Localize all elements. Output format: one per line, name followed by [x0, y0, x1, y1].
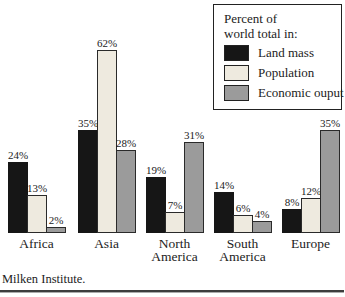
bar-group: 19%7%31%NorthAmerica: [146, 129, 203, 233]
legend-item-land-mass: Land mass: [224, 45, 337, 61]
population-bar: [97, 50, 117, 233]
bar-value-label: 7%: [168, 199, 183, 211]
population-bar: [165, 212, 185, 233]
legend-item-economic-ouput: Economic ouput: [224, 85, 337, 101]
bar-value-label: 6%: [236, 202, 251, 214]
economic-bar: [46, 227, 66, 233]
category-label: Europe: [291, 237, 330, 250]
legend-title-line2: world total in:: [224, 26, 337, 41]
bar-column: 14%: [214, 179, 234, 233]
legend-item-population: Population: [224, 65, 337, 81]
bar-column: 6%: [233, 202, 253, 233]
bar-group: 35%62%28%Asia: [78, 37, 135, 233]
legend-title: Percent of world total in:: [224, 11, 337, 41]
category-label: SouthAmerica: [219, 237, 265, 263]
bar-value-label: 31%: [184, 129, 204, 141]
economic-bar: [184, 142, 204, 233]
bar-value-label: 24%: [8, 149, 28, 161]
bar-value-label: 12%: [301, 185, 321, 197]
bar-group-bars: 8%12%35%: [282, 117, 339, 233]
economic-bar: [320, 130, 340, 233]
bar-value-label: 4%: [255, 208, 270, 220]
bar-value-label: 13%: [27, 182, 47, 194]
bar-group-bars: 14%6%4%: [214, 179, 271, 233]
bar-group-bars: 35%62%28%: [78, 37, 135, 233]
bar-group: 8%12%35%Europe: [282, 117, 339, 233]
bar-column: 4%: [252, 208, 272, 233]
bar-chart-figure: 24%13%2%Africa35%62%28%Asia19%7%31%North…: [0, 0, 345, 297]
category-label: Africa: [19, 237, 53, 250]
legend-item-label: Land mass: [258, 45, 314, 61]
bar-group-bars: 24%13%2%: [8, 149, 65, 233]
legend-box: Percent of world total in: Land mass Pop…: [213, 4, 342, 110]
bar-column: 2%: [46, 214, 66, 233]
category-label: Asia: [94, 237, 119, 250]
bar-value-label: 19%: [146, 164, 166, 176]
bar-value-label: 62%: [97, 37, 117, 49]
bar-group-bars: 19%7%31%: [146, 129, 203, 233]
bar-column: 35%: [320, 117, 340, 233]
bar-value-label: 2%: [49, 214, 64, 226]
bar-column: 24%: [8, 149, 28, 233]
population-bar: [301, 198, 321, 233]
bottom-rule-light: [0, 292, 344, 293]
bar-column: 31%: [184, 129, 204, 233]
population-bar: [233, 215, 253, 233]
category-label: NorthAmerica: [151, 237, 197, 263]
bar-column: 8%: [282, 196, 302, 233]
bar-value-label: 14%: [214, 179, 234, 191]
bar-column: 19%: [146, 164, 166, 233]
bar-value-label: 35%: [320, 117, 340, 129]
bar-column: 12%: [301, 185, 321, 233]
bar-column: 28%: [116, 137, 136, 233]
bar-column: 62%: [97, 37, 117, 233]
landmass-bar: [78, 130, 98, 233]
economic-bar: [252, 221, 272, 233]
bar-column: 13%: [27, 182, 47, 233]
bar-value-label: 28%: [116, 137, 136, 149]
bar-value-label: 35%: [78, 117, 98, 129]
bar-value-label: 8%: [285, 196, 300, 208]
bar-group: 14%6%4%SouthAmerica: [214, 179, 271, 233]
economic-ouput-swatch-icon: [224, 85, 249, 101]
landmass-bar: [146, 177, 166, 233]
landmass-bar: [8, 162, 28, 233]
legend-item-label: Population: [258, 65, 314, 81]
source-text: Milken Institute.: [2, 272, 85, 287]
bar-group: 24%13%2%Africa: [8, 149, 65, 233]
bar-column: 35%: [78, 117, 98, 233]
bar-column: 7%: [165, 199, 185, 233]
legend-title-line1: Percent of: [224, 11, 337, 26]
economic-bar: [116, 150, 136, 233]
population-swatch-icon: [224, 65, 249, 81]
legend-item-label: Economic ouput: [258, 85, 344, 101]
population-bar: [27, 195, 47, 233]
landmass-bar: [214, 192, 234, 233]
land-mass-swatch-icon: [224, 45, 249, 61]
landmass-bar: [282, 209, 302, 233]
